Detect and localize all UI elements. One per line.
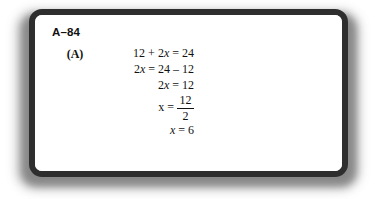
equation-step-4: x = 12 2 <box>158 94 194 121</box>
problem-frame-interior: A–84 (A) 12 + 2x = 24 2x = 24 – 12 2x = … <box>35 15 342 171</box>
problem-frame: A–84 (A) 12 + 2x = 24 2x = 24 – 12 2x = … <box>29 9 348 177</box>
fraction-denominator: 2 <box>181 110 191 122</box>
equation-step-5-text: x = 6 <box>170 123 194 137</box>
equation-step-2-text: 2x = 24 – 12 <box>134 62 194 76</box>
figure-page: A–84 (A) 12 + 2x = 24 2x = 24 – 12 2x = … <box>0 0 377 199</box>
equation-step-3-text: 2x = 12 <box>158 78 194 92</box>
equation-step-3: 2x = 12 <box>158 78 194 94</box>
equation-step-2: 2x = 24 – 12 <box>134 62 194 78</box>
equation-steps: 12 + 2x = 24 2x = 24 – 12 2x = 12 x = 12 <box>98 46 194 139</box>
problem-number-label: A–84 <box>52 26 80 38</box>
fraction: 12 2 <box>177 94 194 121</box>
fraction-numerator: 12 <box>178 94 194 106</box>
equation-step-5: x = 6 <box>170 123 194 139</box>
equation-step-1: 12 + 2x = 24 <box>133 46 194 62</box>
worked-solution: (A) 12 + 2x = 24 2x = 24 – 12 2x = 12 x … <box>52 46 194 139</box>
equation-step-4-lhs: x = <box>158 100 177 117</box>
part-label: (A) <box>52 46 98 62</box>
equation-step-1-text: 12 + 2x = 24 <box>133 46 194 60</box>
